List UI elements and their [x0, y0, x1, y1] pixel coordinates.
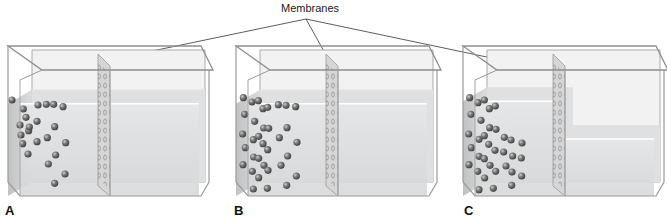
panel-label-a: A: [5, 203, 14, 218]
solute-particle-left: [465, 161, 472, 168]
solute-particle-left: [481, 96, 488, 103]
solute-particle-left: [34, 101, 41, 108]
solute-particle-left: [475, 186, 482, 193]
solute-particle-left: [491, 147, 498, 154]
solute-particle-left: [486, 124, 493, 131]
solute-particle-right: [502, 162, 509, 169]
solute-particle-right: [44, 134, 51, 141]
solute-particle-left: [264, 104, 271, 111]
solute-particle-right: [293, 139, 300, 146]
solute-particle-left: [481, 174, 488, 181]
solute-particle-left: [251, 118, 258, 125]
water-right: [565, 139, 654, 196]
solute-particle-left: [240, 94, 247, 101]
solute-particle-right: [501, 134, 508, 141]
solute-particle-right: [293, 172, 300, 179]
solute-particle-left: [249, 168, 256, 175]
solute-particle-left: [239, 130, 246, 137]
solute-particle-right: [508, 168, 515, 175]
beaker-c: [463, 46, 667, 196]
solute-particle-right: [283, 124, 290, 131]
solute-particle-right: [508, 182, 515, 189]
solute-particle-left: [255, 97, 262, 104]
solute-particle-right: [62, 139, 69, 146]
solute-particle-right: [500, 148, 507, 155]
solute-particle-left: [26, 123, 33, 130]
solute-particle-left: [481, 132, 488, 139]
solute-particle-left: [255, 133, 262, 140]
solute-particle-right: [282, 102, 289, 109]
water-left: [475, 101, 563, 196]
water-left: [248, 104, 336, 196]
solute-particle-left: [492, 168, 499, 175]
solute-particle-left: [248, 98, 255, 105]
solute-particle-right: [284, 152, 291, 159]
solute-particle-right: [283, 182, 290, 189]
solute-particle-right: [43, 101, 50, 108]
solute-particle-left: [259, 140, 266, 147]
water-right: [110, 104, 199, 196]
water-left: [20, 104, 108, 196]
solute-particle-right: [507, 136, 514, 143]
solute-particle-left: [239, 161, 246, 168]
solute-particle-left: [485, 141, 492, 148]
solute-particle-left: [490, 185, 497, 192]
solute-particle-right: [276, 134, 283, 141]
solute-particle-left: [250, 185, 257, 192]
solute-particle-left: [486, 162, 493, 169]
solute-particle-left: [8, 96, 15, 103]
membrane: [326, 54, 338, 196]
solute-particle-right: [59, 103, 66, 110]
membrane: [553, 54, 565, 196]
beaker-panels: [8, 46, 667, 196]
membrane: [98, 54, 110, 196]
solute-particle-right: [275, 101, 282, 108]
solute-particle-left: [255, 155, 262, 162]
solute-particle-right: [518, 172, 525, 179]
solute-particle-left: [492, 102, 499, 109]
panel-label-c: C: [464, 203, 473, 218]
solute-particle-left: [492, 126, 499, 133]
osmosis-diagram: [0, 0, 667, 221]
solute-particle-left: [265, 125, 272, 132]
solute-particle-right: [45, 160, 52, 167]
solute-particle-right: [51, 123, 58, 130]
solute-particle-left: [264, 146, 271, 153]
solute-particle-right: [518, 139, 525, 146]
membranes-label: Membranes: [281, 2, 339, 14]
solute-particle-left: [24, 150, 31, 157]
solute-particle-right: [50, 101, 57, 108]
water-right: [338, 104, 427, 196]
beaker-a: [8, 46, 213, 196]
solute-particle-left: [468, 144, 475, 151]
solute-particle-right: [509, 152, 516, 159]
beaker-b: [236, 46, 441, 196]
solute-particle-left: [241, 111, 248, 118]
solute-particle-right: [52, 151, 59, 158]
solute-particle-right: [61, 170, 68, 177]
solute-particle-left: [477, 117, 484, 124]
solute-particle-left: [22, 114, 29, 121]
solute-particle-left: [20, 105, 27, 112]
solute-particle-right: [292, 103, 299, 110]
panel-label-b: B: [234, 203, 243, 218]
solute-particle-right: [518, 154, 525, 161]
solute-particle-left: [264, 185, 271, 192]
solute-particle-left: [255, 174, 262, 181]
solute-particle-left: [33, 138, 40, 145]
solute-particle-left: [481, 155, 488, 162]
solute-particle-right: [277, 162, 284, 169]
solute-particle-left: [33, 118, 40, 125]
solute-particle-left: [467, 111, 474, 118]
solute-particle-left: [264, 167, 271, 174]
solute-particle-left: [17, 131, 24, 138]
solute-particle-left: [466, 94, 473, 101]
solute-particle-left: [465, 130, 472, 137]
solute-particle-right: [51, 180, 58, 187]
